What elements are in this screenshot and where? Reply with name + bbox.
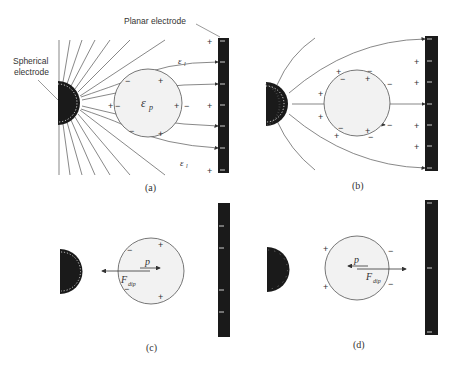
svg-text:+: + (334, 131, 339, 141)
svg-text:−: − (388, 246, 393, 256)
caption-a: (a) (145, 182, 156, 194)
svg-text:+: + (318, 112, 323, 122)
spherical-electrode-label-1: Spherical (13, 56, 49, 66)
svg-text:−: − (125, 76, 130, 86)
particle-b (324, 70, 390, 136)
force-label-c: F (120, 274, 128, 285)
spherical-electrode-label-2: electrode (14, 67, 49, 77)
spherical-electrode-b (266, 82, 288, 126)
svg-text:+: + (207, 101, 212, 111)
svg-text:−: − (340, 74, 345, 84)
svg-text:−: − (127, 245, 132, 255)
particle-permittivity-sub: p (148, 103, 153, 112)
planar-electrode-b: + + + + (414, 36, 438, 171)
svg-text:+: + (323, 244, 328, 254)
medium-permittivity-bottom: ε (180, 158, 184, 168)
svg-text:+: + (158, 292, 163, 302)
particle-permittivity: ε (141, 96, 146, 110)
svg-text:dip: dip (373, 278, 381, 284)
svg-text:+: + (108, 101, 113, 111)
particle-d (325, 236, 389, 300)
svg-text:+: + (318, 89, 323, 99)
svg-text:−: − (115, 101, 120, 111)
panel-c: − + − + p F dip (c) (60, 203, 230, 354)
svg-text:+: + (158, 76, 163, 86)
planar-electrode-a: + + + (207, 37, 229, 176)
svg-text:dip: dip (128, 281, 136, 287)
spherical-electrode-a (58, 81, 80, 125)
caption-b: (b) (352, 180, 364, 192)
svg-text:−: − (368, 132, 373, 142)
svg-text:+: + (414, 78, 419, 88)
dipole-label-d: p (353, 254, 359, 265)
svg-text:+: + (207, 37, 212, 47)
svg-text:−: − (388, 279, 393, 289)
planar-electrode-d (425, 200, 438, 335)
hemisphere-electrode-d (267, 247, 290, 292)
planar-electrode-c (218, 203, 230, 337)
dipole-label-c: p (144, 256, 150, 267)
svg-text:+: + (323, 282, 328, 292)
caption-c: (c) (146, 342, 157, 354)
svg-text:+: + (414, 142, 419, 152)
svg-text:+: + (174, 101, 179, 111)
hemisphere-electrode-c (60, 249, 83, 294)
svg-text:l: l (186, 163, 188, 169)
dielectrophoresis-figure: ε p ε l ε l − + + − + − − + (0, 0, 452, 367)
svg-text:+: + (207, 166, 212, 176)
svg-text:+: + (158, 240, 163, 250)
svg-text:+: + (365, 74, 370, 84)
force-label-d: F (365, 271, 373, 282)
svg-text:+: + (158, 129, 163, 139)
svg-text:−: − (387, 79, 392, 89)
svg-text:+: + (414, 121, 419, 131)
medium-permittivity-top: ε (178, 56, 182, 66)
panel-a: ε p ε l ε l − + + − + − − + (13, 16, 229, 194)
panel-d: + + − − p F dip (d) (267, 200, 438, 351)
planar-electrode-label: Planar electrode (124, 16, 186, 26)
svg-text:−: − (129, 126, 134, 136)
svg-text:+: + (414, 57, 419, 67)
svg-text:−: − (387, 120, 392, 130)
svg-text:−: − (184, 101, 189, 111)
panel-b: + − − + − + + − − + + − + + (266, 36, 438, 192)
caption-d: (d) (353, 339, 365, 351)
